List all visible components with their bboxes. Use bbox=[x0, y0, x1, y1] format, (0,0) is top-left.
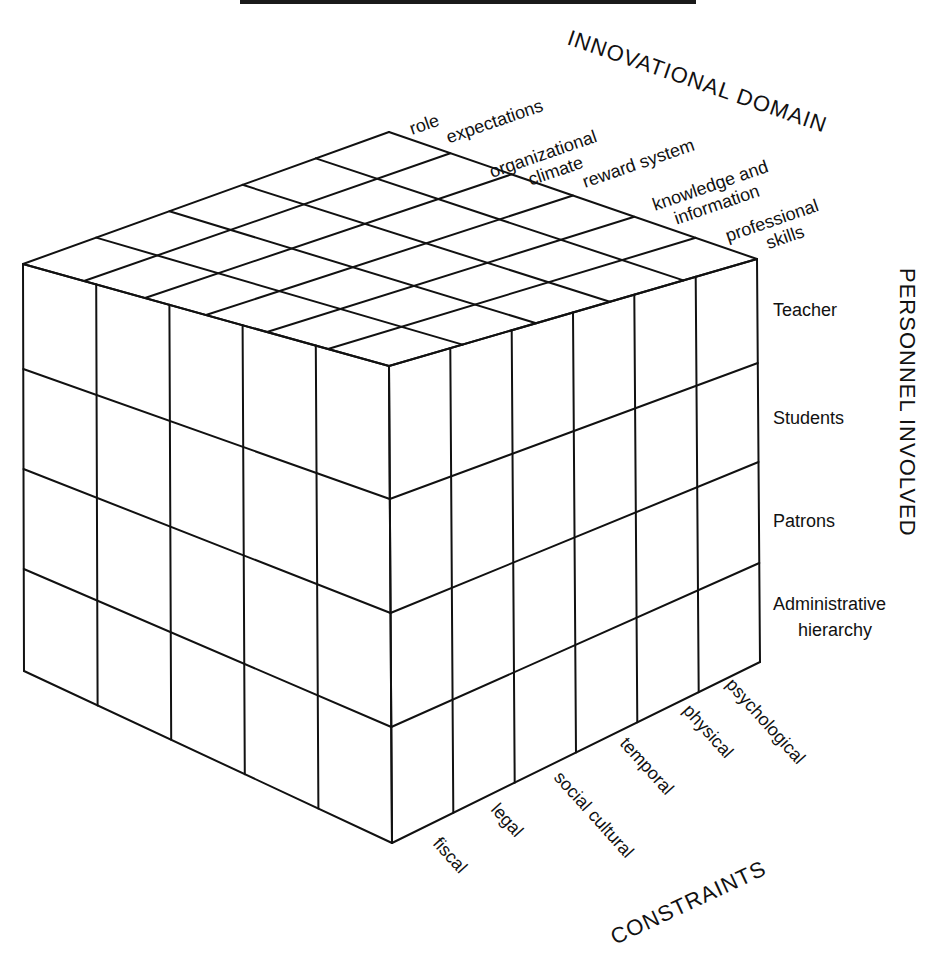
top-face-line bbox=[23, 132, 389, 264]
top-rule bbox=[240, 0, 696, 4]
axis-title-constraints: CONSTRAINTS bbox=[607, 856, 770, 950]
right-face-vertical bbox=[450, 348, 453, 813]
right-face-vertical bbox=[634, 295, 637, 723]
cube-diagram: INNOVATIONAL DOMAIN PERSONNEL INVOLVED C… bbox=[0, 0, 938, 962]
cube-grid bbox=[23, 132, 760, 843]
personnel-label: Teacher bbox=[773, 300, 837, 320]
left-face-row bbox=[23, 264, 389, 366]
constraint-label: temporal bbox=[616, 733, 678, 798]
left-face-vertical bbox=[96, 284, 97, 705]
axis-title-innovational-domain: INNOVATIONAL DOMAIN bbox=[564, 25, 830, 137]
constraint-label: physical bbox=[679, 700, 737, 762]
constraint-label: psychological bbox=[722, 674, 809, 768]
constraint-label: fiscal bbox=[429, 833, 471, 877]
left-face-row bbox=[24, 469, 391, 613]
personnel-labels: TeacherStudentsPatronsAdministrativehier… bbox=[773, 300, 886, 640]
left-face-vertical bbox=[169, 305, 171, 740]
personnel-label: Administrativehierarchy bbox=[773, 594, 886, 640]
top-face-line bbox=[267, 217, 634, 332]
left-face-vertical bbox=[23, 264, 24, 671]
top-face-line bbox=[206, 196, 573, 316]
constraint-label: legal bbox=[487, 799, 527, 841]
top-face-line bbox=[84, 153, 450, 281]
personnel-label: Students bbox=[773, 408, 844, 428]
left-face-vertical bbox=[243, 325, 245, 774]
constraint-labels: fiscallegalsocial culturaltemporalphysic… bbox=[429, 674, 809, 877]
right-face-vertical bbox=[389, 366, 392, 843]
left-face-vertical bbox=[316, 346, 319, 809]
cube-svg: INNOVATIONAL DOMAIN PERSONNEL INVOLVED C… bbox=[0, 0, 938, 962]
left-face-row bbox=[24, 671, 392, 843]
constraint-label: social cultural bbox=[550, 767, 638, 861]
axis-title-personnel-involved: PERSONNEL INVOLVED bbox=[895, 268, 920, 537]
left-face-row bbox=[23, 369, 390, 499]
right-face-vertical bbox=[696, 277, 699, 692]
top-face-line bbox=[145, 174, 512, 298]
right-face-vertical bbox=[573, 313, 576, 753]
personnel-label: Patrons bbox=[773, 511, 835, 531]
right-face-vertical bbox=[757, 259, 760, 662]
right-face-vertical bbox=[512, 330, 515, 782]
